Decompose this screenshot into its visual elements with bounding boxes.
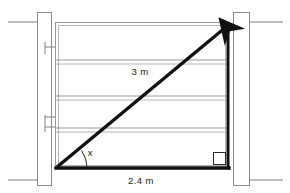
left-post [38,13,52,186]
hypotenuse-label: 3 m [131,66,148,77]
right-post [234,13,250,186]
left-post-body [38,13,52,186]
angle-label: x [88,147,93,158]
base-label: 2.4 m [128,175,154,186]
right-post-body [234,13,250,186]
gate-triangle-diagram: 3 m 2.4 m x [0,0,290,193]
diagram-canvas: 3 m 2.4 m x [0,0,290,193]
